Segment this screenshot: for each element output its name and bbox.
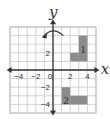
x-tick-label: −4	[14, 72, 24, 81]
x-tick-label: 4	[85, 72, 90, 81]
shape-2: 2	[62, 87, 88, 106]
shape-label: 2	[63, 94, 69, 106]
coordinate-grid-figure: 12 −4−20242−2−4 x y	[0, 0, 110, 119]
shape-region	[70, 53, 79, 62]
y-tick-label: −2	[41, 83, 51, 92]
y-tick-label: 2	[46, 49, 51, 58]
shape-region	[70, 96, 87, 105]
shape-label: 1	[80, 43, 86, 55]
x-tick-label: 2	[68, 72, 73, 81]
shape-1: 1	[70, 36, 87, 62]
x-tick-label: −2	[31, 72, 41, 81]
y-axis-label: y	[48, 3, 58, 21]
x-axis-label: x	[101, 60, 110, 78]
rotation-arrow-arc	[45, 31, 64, 36]
x-axis-arrow-left-icon	[7, 67, 12, 73]
x-tick-label: 0	[48, 72, 53, 81]
x-axis-arrow-right-icon	[94, 67, 99, 73]
y-tick-label: −4	[41, 100, 51, 109]
